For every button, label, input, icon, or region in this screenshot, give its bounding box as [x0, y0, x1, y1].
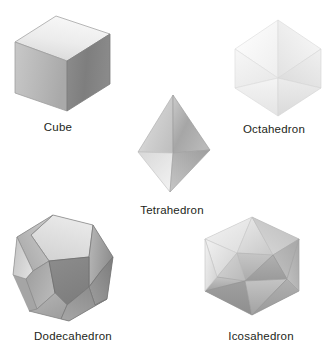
cube-label: Cube — [0, 121, 116, 134]
tetrahedron-face-upper-right — [173, 95, 210, 153]
platonic-solids-figure: Cube — [0, 0, 328, 350]
dodecahedron-illustration — [9, 213, 119, 325]
tetrahedron-face-lower-left — [138, 152, 173, 192]
octahedron-illustration — [232, 16, 324, 120]
icosahedron-illustration — [197, 215, 311, 321]
tetrahedron-face-lower-right — [170, 150, 210, 192]
tetrahedron-face-upper-left — [138, 95, 173, 153]
icosahedron-label: Icosahedron — [205, 330, 317, 343]
tetrahedron-illustration — [135, 92, 215, 196]
octahedron-label: Octahedron — [220, 123, 328, 136]
cube-illustration — [13, 14, 113, 114]
dodecahedron-label: Dodecahedron — [18, 330, 128, 343]
